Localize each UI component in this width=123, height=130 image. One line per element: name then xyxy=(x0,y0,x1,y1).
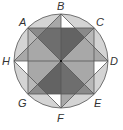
label-g: G xyxy=(18,98,27,109)
label-f: F xyxy=(57,113,64,124)
label-b: B xyxy=(57,1,64,12)
label-e: E xyxy=(94,98,101,109)
label-h: H xyxy=(2,56,10,67)
label-a: A xyxy=(19,17,26,28)
center-point xyxy=(60,60,62,62)
label-d: D xyxy=(110,56,118,67)
label-c: C xyxy=(96,17,104,28)
